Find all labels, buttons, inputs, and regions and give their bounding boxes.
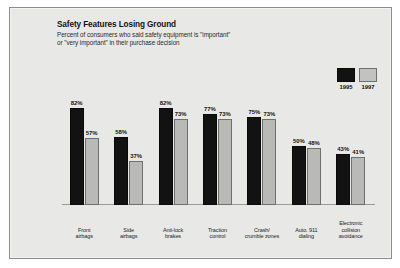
bar-item: 73% (262, 87, 276, 205)
bar-value-label: 73% (219, 111, 231, 118)
chart-panel: Safety Features Losing Ground Percent of… (9, 7, 392, 259)
bar-item: 43% (336, 87, 350, 205)
bar-value-label: 73% (263, 111, 275, 118)
bar-item: 48% (307, 87, 321, 205)
bar-item: 82% (159, 87, 173, 205)
bar-group: 58%37%Sideairbags (106, 58, 150, 248)
bar-group: 43%41%Electroniccollisionavoidance (329, 58, 373, 248)
bar (351, 157, 365, 205)
bar-value-label: 82% (160, 100, 172, 107)
bar-value-label: 73% (175, 111, 187, 118)
bar-item: 73% (218, 87, 232, 205)
bar (262, 119, 276, 205)
bar (85, 138, 99, 205)
bar-pair: 50%48% (284, 87, 328, 205)
bar-value-label: 50% (293, 138, 305, 145)
bar (174, 119, 188, 205)
bar-group: 75%73%Crash/crumble zones (240, 58, 284, 248)
bar-groups: 82%57%Frontairbags58%37%Sideairbags82%73… (62, 58, 373, 248)
bar-item: 57% (85, 87, 99, 205)
bar-pair: 43%41% (329, 87, 373, 205)
bar-group: 82%73%Anti-lockbrakes (151, 58, 195, 248)
bar (292, 146, 306, 205)
bar-value-label: 57% (86, 130, 98, 137)
bar-value-label: 58% (115, 129, 127, 136)
bar-pair: 58%37% (106, 87, 150, 205)
bar-pair: 82%57% (62, 87, 106, 205)
bar-item: 41% (351, 87, 365, 205)
bar-value-label: 48% (308, 140, 320, 147)
bar (218, 119, 232, 205)
bar-item: 50% (292, 87, 306, 205)
bar (114, 137, 128, 205)
bar-item: 75% (247, 87, 261, 205)
bar-value-label: 43% (337, 146, 349, 153)
bar-item: 58% (114, 87, 128, 205)
bar-value-label: 82% (71, 100, 83, 107)
category-label-line: collision (323, 227, 379, 234)
bar-group: 82%57%Frontairbags (62, 58, 106, 248)
bar-pair: 75%73% (240, 87, 284, 205)
bar (129, 161, 143, 205)
chart-subtitle-line-2: or "very important" in their purchase de… (57, 39, 347, 47)
bar-item: 77% (203, 87, 217, 205)
chart-screenshot: Safety Features Losing Ground Percent of… (0, 0, 400, 268)
bar-pair: 77%73% (195, 87, 239, 205)
chart-title: Safety Features Losing Ground (57, 20, 347, 30)
bar (203, 114, 217, 205)
bar-value-label: 75% (248, 109, 260, 116)
chart-header: Safety Features Losing Ground Percent of… (57, 20, 347, 46)
plot-area: 82%57%Frontairbags58%37%Sideairbags82%73… (32, 58, 375, 248)
bar (70, 108, 84, 205)
bar-value-label: 77% (204, 106, 216, 113)
bar-item: 82% (70, 87, 84, 205)
category-label-line: avoidance (323, 233, 379, 240)
category-label: Electroniccollisionavoidance (323, 220, 379, 240)
bar-pair: 82%73% (151, 87, 195, 205)
bar (247, 117, 261, 206)
chart-subtitle-line-1: Percent of consumers who said safety equ… (57, 31, 347, 39)
bar-item: 73% (174, 87, 188, 205)
category-label-line: Electronic (323, 220, 379, 227)
bar-value-label: 41% (352, 149, 364, 156)
bar-value-label: 37% (130, 153, 142, 160)
bar-group: 77%73%Tractioncontrol (195, 58, 239, 248)
bar (336, 154, 350, 205)
bar (159, 108, 173, 205)
bar (307, 148, 321, 205)
bar-item: 37% (129, 87, 143, 205)
